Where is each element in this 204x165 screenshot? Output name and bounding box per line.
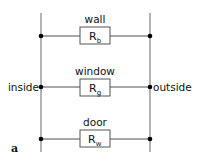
node-right-bottom	[148, 137, 153, 142]
node-right-top	[148, 34, 153, 39]
branch-door: Rw door	[39, 116, 153, 148]
circuit-diagram: Rb wall Rg window Rw door inside outside…	[0, 0, 204, 165]
outside-label: outside	[153, 81, 192, 93]
node-left-top	[39, 34, 44, 39]
figure-label: a	[11, 142, 18, 155]
node-right-middle	[148, 85, 153, 90]
branch-window: Rg window	[39, 65, 153, 97]
branch-label-window: window	[75, 65, 115, 77]
branch-label-wall: wall	[85, 13, 106, 25]
node-left-middle	[39, 85, 44, 90]
branch-label-door: door	[83, 116, 108, 128]
node-left-bottom	[39, 137, 44, 142]
inside-label: inside	[8, 81, 39, 93]
branch-wall: Rb wall	[39, 13, 153, 45]
